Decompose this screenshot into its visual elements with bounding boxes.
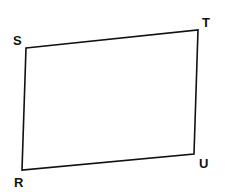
quadrilateral-rstu: [22, 30, 198, 170]
vertex-label-t: T: [202, 15, 210, 30]
vertex-label-r: R: [14, 175, 24, 190]
vertex-label-u: U: [199, 156, 208, 171]
quadrilateral-diagram: S T U R: [0, 0, 225, 192]
vertex-label-s: S: [13, 33, 22, 48]
